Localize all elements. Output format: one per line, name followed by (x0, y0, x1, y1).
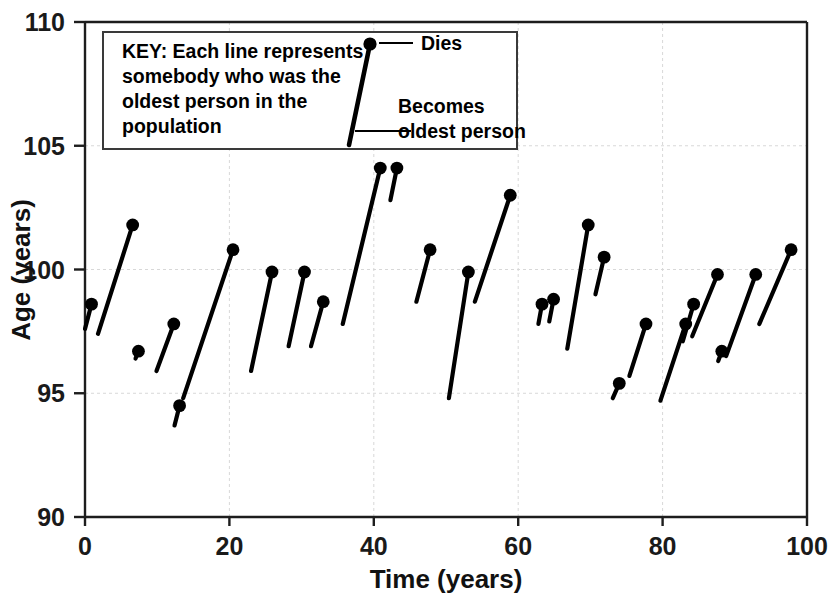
y-tick-label: 90 (37, 503, 65, 531)
death-dot-marker (640, 318, 653, 331)
key-annotation-becomes-line-2: oldest person (398, 120, 526, 142)
key-bold-label: KEY: (122, 40, 167, 62)
death-dot-marker (598, 251, 611, 264)
key-line-4: population (122, 115, 222, 137)
y-tick-label: 95 (37, 379, 65, 407)
death-dot-marker (132, 345, 145, 358)
death-dot-marker (227, 243, 240, 256)
key-annotation-becomes-line-1: Becomes (398, 95, 485, 117)
y-tick-label: 110 (25, 8, 65, 36)
y-axis-title: Age (years) (6, 199, 36, 341)
death-dot-marker (504, 189, 517, 202)
death-dot-marker (85, 298, 98, 311)
x-tick-label: 0 (78, 532, 92, 560)
death-dot-marker (785, 243, 798, 256)
death-dot-marker (298, 266, 311, 279)
chart-figure: 020406080100 9095100105110 Time (years) … (0, 0, 833, 602)
death-dot-marker (391, 162, 404, 175)
death-dot-marker (547, 293, 560, 306)
x-tick-label: 100 (786, 532, 828, 560)
death-dot-marker (374, 162, 387, 175)
death-dot-marker (613, 377, 626, 390)
death-dot-marker (687, 298, 700, 311)
death-dot-marker (173, 399, 186, 412)
key-line-1: KEY: Each line represents (122, 40, 363, 62)
death-dot-marker (317, 295, 330, 308)
x-tick-label: 20 (215, 532, 243, 560)
x-axis-title: Time (years) (370, 564, 523, 594)
death-dot-marker (424, 243, 437, 256)
death-dot-marker (749, 268, 762, 281)
death-dot-marker (711, 268, 724, 281)
key-annotation-dies: Dies (421, 32, 462, 54)
death-dot-marker (126, 219, 139, 232)
x-tick-label: 60 (504, 532, 532, 560)
death-dot-marker (266, 266, 279, 279)
key-line-2: somebody who was the (122, 65, 341, 87)
x-tick-label: 80 (649, 532, 677, 560)
death-dot-marker (167, 318, 180, 331)
death-dot-marker (462, 266, 475, 279)
key-line-3: oldest person in the (122, 90, 307, 112)
x-tick-label: 40 (360, 532, 388, 560)
death-dot-marker (582, 219, 595, 232)
key-death-dot-icon (363, 37, 376, 50)
y-tick-label: 105 (23, 132, 65, 160)
life-expectancy-line-chart: 020406080100 9095100105110 Time (years) … (0, 0, 833, 602)
death-dot-marker (536, 298, 549, 311)
key-line-1-text: Each line represents (167, 40, 363, 62)
key-legend: KEY: Each line represents somebody who w… (103, 32, 526, 149)
